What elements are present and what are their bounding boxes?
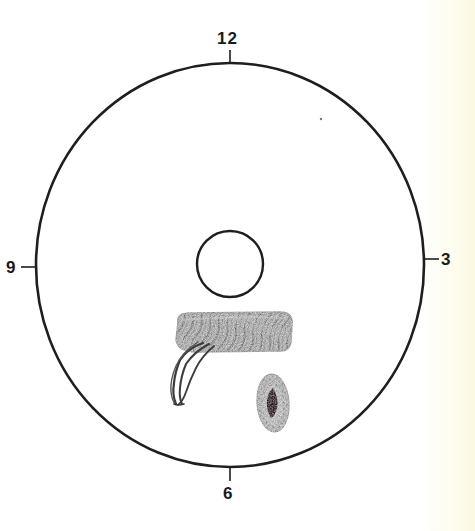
outer-circle <box>36 63 424 467</box>
clock-label-9: 9 <box>6 259 16 276</box>
shaded-band <box>176 312 292 352</box>
inner-circle <box>197 231 263 297</box>
clock-label-6: 6 <box>223 485 233 502</box>
clock-label-12: 12 <box>217 30 238 47</box>
speck <box>320 118 322 120</box>
oval-lesion <box>255 373 291 433</box>
diagram-canvas <box>0 0 475 531</box>
clock-face-diagram: 12 3 6 9 <box>0 0 475 531</box>
clock-label-3: 3 <box>441 251 451 268</box>
